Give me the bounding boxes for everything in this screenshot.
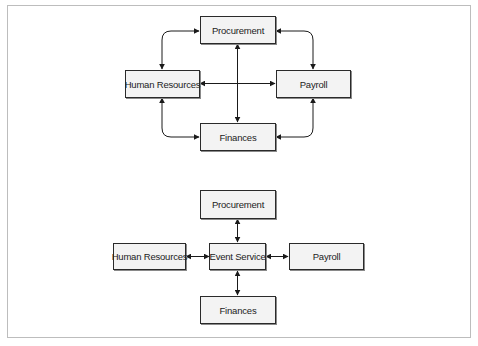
edge-procurement-payroll [276,31,313,69]
edge-finances-payroll [276,98,313,137]
node-label: Finances [220,132,257,143]
edge-hr-finances [162,98,199,137]
node-procurement-bottom: Procurement [200,190,276,219]
node-payroll-top: Payroll [276,70,351,98]
node-finances-bottom: Finances [200,296,276,324]
node-label: Payroll [313,251,341,262]
node-label: Event Service [210,251,266,262]
edge-hr-procurement [162,31,199,69]
node-label: Payroll [300,79,328,90]
node-procurement-top: Procurement [200,16,276,44]
node-human-resources-top: Human Resources [125,70,200,98]
node-human-resources-bottom: Human Resources [113,243,186,270]
node-label: Finances [220,305,257,316]
node-label: Procurement [212,25,264,36]
node-label: Procurement [212,199,264,210]
node-label: Human Resources [125,79,201,90]
node-finances-top: Finances [200,123,276,151]
node-event-service: Event Service [209,243,266,270]
node-payroll-bottom: Payroll [289,243,364,270]
node-label: Human Resources [112,251,188,262]
diagram-edges [0,0,478,346]
